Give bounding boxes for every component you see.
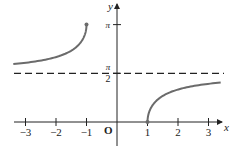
y-axis-label: y [107, 0, 113, 12]
curve-endpoint-dot [146, 120, 150, 124]
x-tick-label: −2 [50, 126, 62, 138]
curve-right-branch [148, 83, 221, 122]
y-tick-label-pi: π [105, 20, 110, 30]
x-tick-label: 1 [145, 126, 151, 138]
x-tick-label: −3 [20, 126, 32, 138]
plot-area: −3−2−1123ππ2 [13, 4, 224, 146]
x-tick-label: 3 [206, 126, 212, 138]
y-tick-label-pi-numerator: π [106, 62, 111, 72]
x-tick-label: 2 [175, 126, 181, 138]
x-axis-label: x [223, 121, 229, 133]
y-tick-label-pi-denominator: 2 [106, 73, 111, 84]
origin-label: O [104, 124, 113, 136]
curve-left-branch [13, 25, 86, 64]
curve-endpoint-dot [85, 23, 89, 27]
chart-canvas: −3−2−1123ππ2 x y O [0, 0, 232, 152]
x-tick-label: −1 [81, 126, 93, 138]
